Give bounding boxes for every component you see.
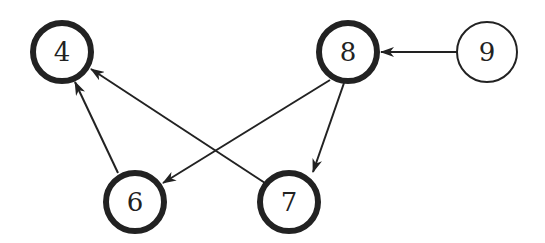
node-7: 7	[260, 173, 318, 231]
edge-8-to-7	[313, 83, 344, 172]
node-8: 8	[319, 23, 377, 81]
node-6: 6	[106, 173, 164, 231]
node-8-label: 8	[340, 37, 357, 67]
graph-diagram: 4 8 9 6 7	[0, 0, 545, 243]
edge-6-to-4	[75, 82, 118, 173]
node-9: 9	[457, 22, 517, 82]
node-9-label: 9	[479, 37, 496, 67]
node-6-label: 6	[127, 187, 144, 217]
edge-7-to-4	[91, 69, 265, 183]
node-4-label: 4	[54, 37, 71, 67]
node-4: 4	[33, 23, 91, 81]
node-7-label: 7	[281, 187, 298, 217]
